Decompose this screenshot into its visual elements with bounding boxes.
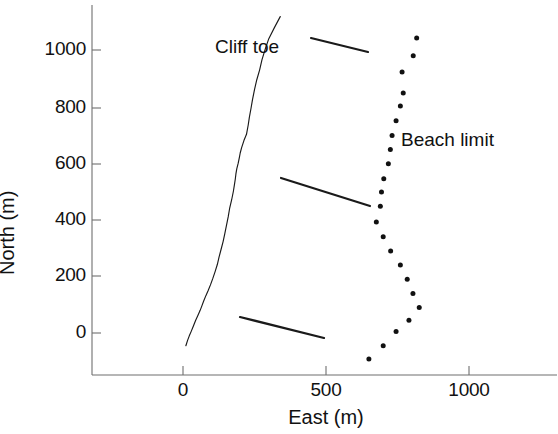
data-point-beach-limit [414,36,419,41]
x-tick-label: 500 [286,379,366,401]
data-point-beach-limit [417,305,422,310]
y-tick-label: 800 [55,96,86,118]
data-point-beach-limit [394,118,399,123]
x-axis-ticks [183,366,469,375]
data-point-beach-limit [374,220,379,225]
data-point-beach-limit [366,357,371,362]
x-tick-label: 0 [143,379,223,401]
chart-figure: 10008006004002000 05001000 East (m) Nort… [0,0,558,434]
data-point-beach-limit [381,343,386,348]
y-axis-ticks [92,50,101,333]
y-axis-title: North (m) [0,191,19,275]
annotation-leader-lines [240,38,370,338]
y-tick-label: 1000 [45,38,86,60]
data-point-beach-limit [401,91,406,96]
data-point-beach-limit [405,277,410,282]
x-tick-label: 1000 [429,379,509,401]
data-point-beach-limit [390,133,395,138]
data-point-beach-limit [398,263,403,268]
data-point-beach-limit [388,248,393,253]
data-point-beach-limit [398,104,403,109]
series-markers-beach-limit [366,36,421,362]
data-point-beach-limit [400,70,405,75]
series-line-cliff-toe [186,17,280,346]
y-tick-label: 400 [55,208,86,230]
data-point-beach-limit [379,190,384,195]
data-point-beach-limit [381,176,386,181]
data-point-beach-limit [394,329,399,334]
data-point-beach-limit [410,291,415,296]
data-point-beach-limit [378,204,383,209]
leader-line [281,178,370,206]
series-label-cliff-toe: Cliff toe [215,36,279,58]
y-tick-label: 200 [55,264,86,286]
data-point-beach-limit [388,147,393,152]
axis-spines [92,5,557,375]
data-point-beach-limit [386,161,391,166]
data-point-beach-limit [411,53,416,58]
series-label-beach-limit: Beach limit [401,129,494,151]
y-tick-label: 0 [76,321,86,343]
y-tick-label: 600 [55,152,86,174]
data-point-beach-limit [381,234,386,239]
leader-line [240,317,324,338]
x-axis-title: East (m) [226,406,426,429]
leader-line [311,38,368,52]
data-point-beach-limit [406,318,411,323]
